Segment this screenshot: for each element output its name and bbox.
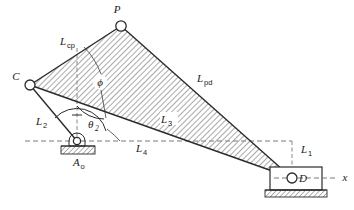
joint-d <box>287 173 297 183</box>
label-point-d: D <box>298 172 307 184</box>
label-phi-main: ϕ <box>97 76 103 88</box>
mechanism-diagram: P C D A o L cp L pd L 2 L 3 <box>0 0 354 210</box>
label-angle-theta2: θ 2 <box>88 118 99 133</box>
label-theta2-subscript: 2 <box>95 124 99 133</box>
label-lpd-subscript: pd <box>204 78 212 87</box>
joint-ao <box>73 137 80 144</box>
label-l2-subscript: 2 <box>43 121 47 130</box>
label-l2-main: L <box>35 115 42 127</box>
theta2-leader-line <box>107 129 120 141</box>
label-ao-main: A <box>72 156 80 168</box>
label-link-l2: L 2 <box>35 115 47 130</box>
label-point-c: C <box>12 70 20 82</box>
label-axis-x: x <box>342 171 348 183</box>
label-point-p: P <box>113 3 121 15</box>
label-ao-subscript: o <box>81 162 85 171</box>
label-l4-main: L <box>135 142 142 154</box>
label-l3-main: L <box>160 113 167 125</box>
label-link-l4: L 4 <box>135 142 147 157</box>
label-lcp-main: L <box>59 35 66 47</box>
label-link-l1: L 1 <box>300 143 312 158</box>
slider-ground-hatch <box>265 190 327 197</box>
pivot-ground-hatch <box>61 146 95 154</box>
label-theta2-main: θ <box>88 118 94 130</box>
label-l3-subscript: 3 <box>168 119 172 128</box>
label-l1-subscript: 1 <box>308 149 312 158</box>
label-lcp-subscript: cp <box>67 41 75 50</box>
joint-p <box>116 21 126 31</box>
label-lpd-main: L <box>196 72 203 84</box>
label-l4-subscript: 4 <box>143 148 147 157</box>
joint-c <box>25 80 35 90</box>
label-l1-main: L <box>300 143 307 155</box>
label-link-pd: L pd <box>196 72 212 87</box>
label-angle-phi: ϕ <box>93 75 108 90</box>
linkage-svg-canvas: P C D A o L cp L pd L 2 L 3 <box>0 0 354 210</box>
label-ground-pivot-ao: A o <box>72 156 85 171</box>
label-link-cp: L cp <box>59 35 75 50</box>
